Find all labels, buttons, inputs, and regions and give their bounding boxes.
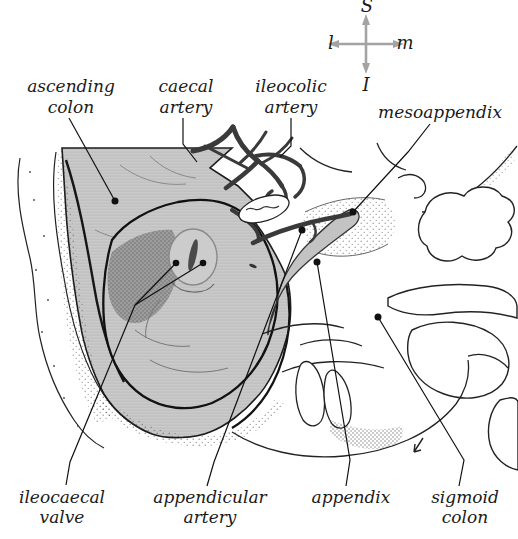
compass-superior-label: S <box>361 0 373 16</box>
label-sigmoid-colon: sigmoid colon <box>431 487 499 527</box>
dot-mesoappendix <box>350 209 357 216</box>
compass-lateral-label: l <box>328 32 334 53</box>
label-sigmoid-colon-line1: sigmoid <box>431 487 499 507</box>
drawing <box>18 127 518 470</box>
dot-appendix <box>314 259 321 266</box>
label-caecal-artery: caecal artery <box>159 76 214 117</box>
orientation-compass: S l m I <box>328 0 414 95</box>
label-mesoappendix-line1: mesoappendix <box>378 102 502 122</box>
small-direction-arrow-icon <box>414 438 423 452</box>
label-sigmoid-colon-line2: colon <box>442 507 488 527</box>
dot-ileocaecal-valve-b <box>200 260 207 267</box>
label-appendix: appendix <box>312 487 391 507</box>
label-ileocaecal-valve-line2: valve <box>40 507 85 527</box>
compass-arrows-icon <box>328 14 404 74</box>
label-ileocaecal-valve: ileocaecal valve <box>19 487 105 527</box>
dot-appendicular-artery <box>299 227 306 234</box>
label-ileocaecal-valve-line1: ileocaecal <box>19 487 105 507</box>
ileocaecal-region-illustration: S l m I <box>0 0 518 539</box>
dot-sigmoid-colon <box>375 314 382 321</box>
label-appendicular-artery-line1: appendicular <box>153 487 267 507</box>
label-ileocolic-artery-line1: ileocolic <box>255 76 327 96</box>
compass-medial-label: m <box>396 32 413 53</box>
leader-mesoappendix <box>353 124 430 212</box>
dot-ascending-colon <box>112 198 119 205</box>
dot-ileocaecal-valve-a <box>173 260 180 267</box>
label-ascending-colon-line1: ascending <box>27 76 115 96</box>
sigmoid-colon-loops <box>388 187 518 470</box>
label-ileocolic-artery: ileocolic artery <box>255 76 327 117</box>
label-caecal-artery-line1: caecal <box>159 76 214 96</box>
label-ascending-colon-line2: colon <box>48 97 94 117</box>
anatomy-figure-page: S l m I <box>0 0 518 539</box>
label-mesoappendix: mesoappendix <box>378 102 502 122</box>
label-appendicular-artery-line2: artery <box>184 507 237 527</box>
label-ascending-colon: ascending colon <box>27 76 115 117</box>
compass-inferior-label: I <box>361 74 370 95</box>
label-caecal-artery-line2: artery <box>160 97 213 117</box>
lobe-shadow-stipple <box>330 420 403 449</box>
label-appendicular-artery: appendicular artery <box>153 487 267 527</box>
label-appendix-line1: appendix <box>312 487 391 507</box>
label-ileocolic-artery-line2: artery <box>265 97 318 117</box>
